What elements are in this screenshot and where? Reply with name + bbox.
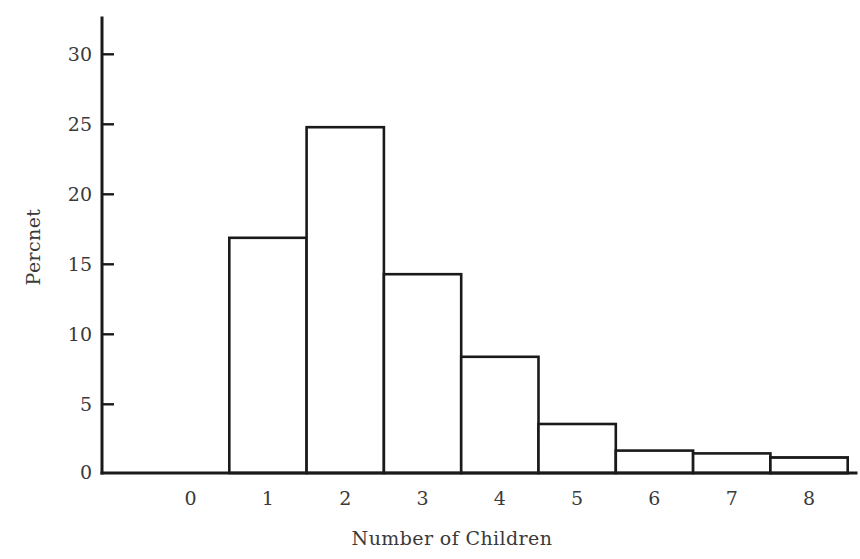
bar-5 bbox=[616, 451, 693, 473]
bar-6 bbox=[693, 453, 770, 473]
y-axis-title: Percnet bbox=[22, 209, 44, 286]
y-tick-marks bbox=[102, 54, 114, 404]
x-axis-title: Number of Children bbox=[352, 527, 553, 549]
y-tick-labels: 30 25 20 15 10 5 0 bbox=[68, 43, 92, 483]
y-tick-label-20: 20 bbox=[68, 183, 92, 205]
x-tick-label-8: 8 bbox=[803, 487, 815, 509]
bar-8 bbox=[770, 458, 847, 473]
y-tick-label-0: 0 bbox=[80, 461, 92, 483]
bar-1 bbox=[307, 127, 384, 473]
bar-4 bbox=[539, 424, 616, 473]
y-tick-label-10: 10 bbox=[68, 323, 92, 345]
x-tick-label-3: 3 bbox=[416, 487, 428, 509]
x-tick-label-5: 5 bbox=[571, 487, 583, 509]
bar-3 bbox=[461, 357, 538, 473]
x-tick-label-2: 2 bbox=[339, 487, 351, 509]
y-tick-label-5: 5 bbox=[80, 393, 92, 415]
x-tick-label-7: 7 bbox=[726, 487, 738, 509]
bar-0 bbox=[229, 238, 306, 473]
bar-series bbox=[229, 127, 847, 473]
x-tick-label-0: 0 bbox=[185, 487, 197, 509]
y-tick-label-30: 30 bbox=[68, 43, 92, 65]
y-tick-label-25: 25 bbox=[68, 113, 92, 135]
chart-canvas: 30 25 20 15 10 5 0 0 1 2 3 4 5 6 7 8 Num… bbox=[0, 0, 860, 559]
bar-2 bbox=[384, 274, 461, 473]
x-tick-label-1: 1 bbox=[262, 487, 274, 509]
x-tick-labels: 0 1 2 3 4 5 6 7 8 bbox=[185, 487, 815, 509]
x-tick-label-4: 4 bbox=[494, 487, 506, 509]
x-tick-label-6: 6 bbox=[648, 487, 660, 509]
y-tick-label-15: 15 bbox=[68, 253, 92, 275]
histogram-figure: 30 25 20 15 10 5 0 0 1 2 3 4 5 6 7 8 Num… bbox=[0, 0, 860, 559]
